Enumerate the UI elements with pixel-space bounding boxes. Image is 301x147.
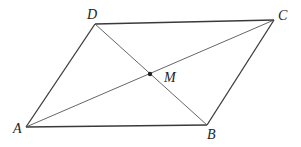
side-bc (207, 20, 274, 125)
parallelogram-diagram: A B C D M (0, 0, 301, 147)
side-ab (26, 125, 207, 127)
vertex-label-b: B (207, 127, 216, 142)
midpoint-label-m: M (163, 70, 177, 85)
vertex-label-d: D (86, 7, 97, 22)
vertex-label-c: C (278, 8, 288, 23)
midpoint-m-dot (148, 72, 152, 76)
side-da (26, 24, 95, 127)
side-cd (95, 20, 274, 24)
vertex-label-a: A (12, 121, 22, 136)
